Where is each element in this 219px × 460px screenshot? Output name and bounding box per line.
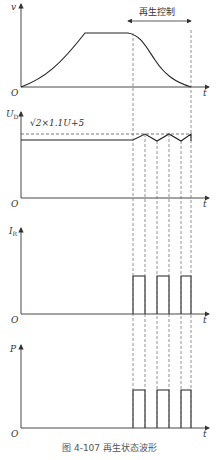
time-label: t: [203, 88, 207, 98]
voltage-curve: [21, 134, 191, 141]
ir-axis-label: IR: [8, 226, 18, 237]
threshold-label: √2×1.1U+5: [30, 118, 84, 128]
ud-axis-label: UD: [6, 109, 19, 120]
velocity-curve: [21, 33, 191, 87]
origin-label: O: [11, 199, 19, 209]
origin-label: O: [11, 429, 19, 439]
time-label: t: [203, 199, 207, 209]
time-label: t: [203, 429, 207, 439]
time-label: t: [203, 315, 207, 325]
dc-voltage-panel: UD √2×1.1U+5 O t: [6, 109, 209, 209]
figure-caption: 图 4-107 再生状态波形: [62, 442, 157, 453]
power-panel: P O t: [9, 344, 209, 439]
p-axis-label: P: [9, 344, 17, 354]
origin-label: O: [11, 88, 19, 98]
velocity-panel: v O t 再生控制: [11, 2, 209, 98]
time-guide-lines: [133, 30, 191, 428]
regeneration-control-label: 再生控制: [139, 6, 175, 17]
v-axis-label: v: [11, 2, 16, 12]
current-pulses: [133, 276, 191, 314]
power-pulses: [133, 390, 191, 428]
resistor-current-panel: IR O t: [8, 226, 209, 325]
origin-label: O: [11, 315, 19, 325]
regeneration-waveform-diagram: v O t 再生控制 UD √2×1.1U+5 O t IR O t P O t: [0, 0, 219, 460]
